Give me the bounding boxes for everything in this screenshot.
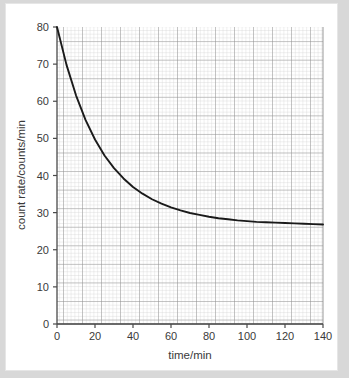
y-tick-label: 0 (43, 318, 49, 330)
y-tick-label: 40 (37, 170, 49, 182)
x-tick-label: 100 (238, 330, 256, 342)
x-axis-title: time/min (168, 349, 211, 361)
x-tick-label: 60 (165, 330, 177, 342)
x-tick-label: 20 (89, 330, 101, 342)
x-tick-label: 80 (203, 330, 215, 342)
y-tick-label: 70 (37, 58, 49, 70)
y-tick-label: 60 (37, 95, 49, 107)
y-tick-label: 10 (37, 281, 49, 293)
y-tick-label: 20 (37, 244, 49, 256)
x-tick-label: 140 (314, 330, 332, 342)
x-tick-label: 120 (276, 330, 294, 342)
figure-card: 01020304050607080 020406080100120140 tim… (6, 4, 337, 370)
x-tick-label: 40 (127, 330, 139, 342)
decay-curve-chart: 01020304050607080 020406080100120140 tim… (6, 4, 337, 370)
y-tick-label: 50 (37, 132, 49, 144)
major-gridlines (57, 27, 323, 324)
y-axis-title: count rate/counts/min (15, 120, 27, 230)
chart-plot-area: 01020304050607080 020406080100120140 tim… (6, 4, 337, 370)
y-tick-label: 80 (37, 21, 49, 33)
x-tick-label: 0 (54, 330, 60, 342)
y-tick-label: 30 (37, 207, 49, 219)
grid-layer (57, 27, 323, 324)
